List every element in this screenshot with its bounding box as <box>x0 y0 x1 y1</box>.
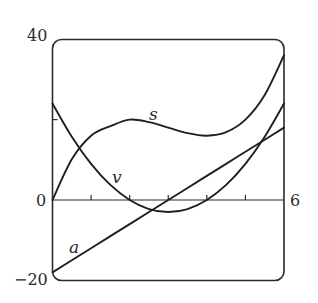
series-label-a: a <box>69 237 79 257</box>
sva-chart: 40 0 −20 6 s v a <box>0 0 318 303</box>
y-tick-label-minus-20: −20 <box>14 270 48 289</box>
series-label-v: v <box>112 167 122 187</box>
x-tick-label-6: 6 <box>290 191 300 210</box>
y-tick-label-40: 40 <box>27 26 47 45</box>
y-tick-label-0: 0 <box>36 191 46 210</box>
series-label-s: s <box>149 104 158 124</box>
series-s-curve <box>53 55 285 200</box>
